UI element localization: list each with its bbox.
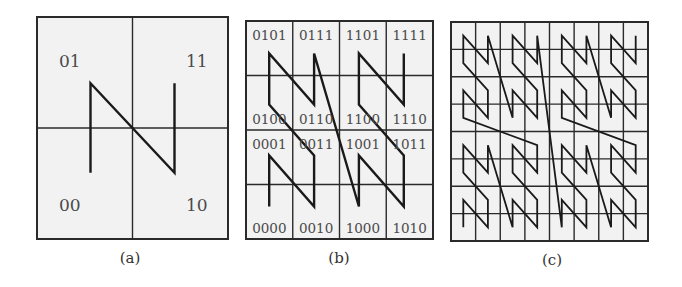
cell-label-1110: 1110 <box>392 111 426 127</box>
cell-label-1100: 1100 <box>346 111 380 127</box>
cell-label-10: 10 <box>186 195 208 215</box>
cell-label-0000: 0000 <box>252 220 286 236</box>
cell-label-0110: 0110 <box>299 111 333 127</box>
cell-label-1101: 1101 <box>346 27 380 43</box>
cell-label-0111: 0111 <box>299 27 333 43</box>
panel-b-caption: (b) <box>328 249 349 267</box>
cell-label-1010: 1010 <box>392 220 426 236</box>
cell-label-1000: 1000 <box>346 220 380 236</box>
cell-label-0100: 0100 <box>252 111 286 127</box>
cell-label-0001: 0001 <box>252 136 286 152</box>
cell-label-1111: 1111 <box>392 27 426 43</box>
z-order-curve-figure: 01110010 (a) 010101111101111101000110110… <box>0 0 682 287</box>
panel-a-2x2-z-curve: 01110010 (a) <box>37 17 228 267</box>
panel-b-4x4-z-curve: 0101011111011111010001101100111000010011… <box>246 21 433 267</box>
cell-label-01: 01 <box>59 51 81 71</box>
cell-label-1011: 1011 <box>392 136 426 152</box>
cell-label-0010: 0010 <box>299 220 333 236</box>
panel-a-caption: (a) <box>120 249 141 267</box>
panel-c-8x8-z-curve: (c) <box>451 22 648 269</box>
cell-label-1001: 1001 <box>346 136 380 152</box>
cell-label-11: 11 <box>186 51 208 71</box>
cell-label-00: 00 <box>59 195 81 215</box>
panel-c-caption: (c) <box>542 251 562 269</box>
cell-label-0101: 0101 <box>252 27 286 43</box>
cell-label-0011: 0011 <box>299 136 333 152</box>
